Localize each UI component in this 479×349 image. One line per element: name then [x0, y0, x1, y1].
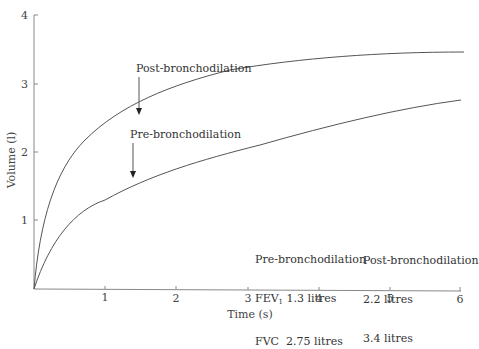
- fev-row: FEV1 1.3 litres: [255, 292, 366, 309]
- svg-text:3: 3: [21, 78, 28, 91]
- post-bronchodilation-label: Post-bronchodilation: [136, 62, 252, 75]
- svg-text:2: 2: [21, 146, 28, 159]
- fvc-row: FVC 2.75 litres: [255, 335, 366, 348]
- y-axis-title: Volume (l): [5, 132, 18, 190]
- svg-text:2: 2: [173, 292, 180, 305]
- fvc-label: FVC: [255, 335, 279, 348]
- pre-results-column: Pre-bronchodilation FEV1 1.3 litres FVC …: [255, 227, 366, 349]
- pre-bronchodilation-label: Pre-bronchodilation: [130, 128, 241, 141]
- svg-text:1: 1: [21, 214, 28, 227]
- post-results-column: Post-bronchodilation 2.2 litres 3.4 litr…: [363, 228, 479, 349]
- svg-text:3: 3: [245, 292, 252, 305]
- post-header: Post-bronchodilation: [363, 254, 479, 267]
- fev-post-value: 2.2 litres: [363, 293, 479, 306]
- y-tick-labels: 4 3 2 1: [21, 9, 28, 227]
- pre-header: Pre-bronchodilation: [255, 253, 366, 266]
- fev-pre-value: 1.3 litres: [283, 292, 336, 305]
- fvc-pre-value: 2.75 litres: [279, 335, 343, 348]
- pre-arrow-head-icon: [130, 171, 136, 178]
- fev-label: FEV: [255, 292, 279, 305]
- post-arrow-head-icon: [136, 108, 142, 115]
- svg-text:4: 4: [21, 9, 28, 22]
- fvc-post-value: 3.4 litres: [363, 332, 479, 345]
- svg-text:1: 1: [102, 291, 109, 304]
